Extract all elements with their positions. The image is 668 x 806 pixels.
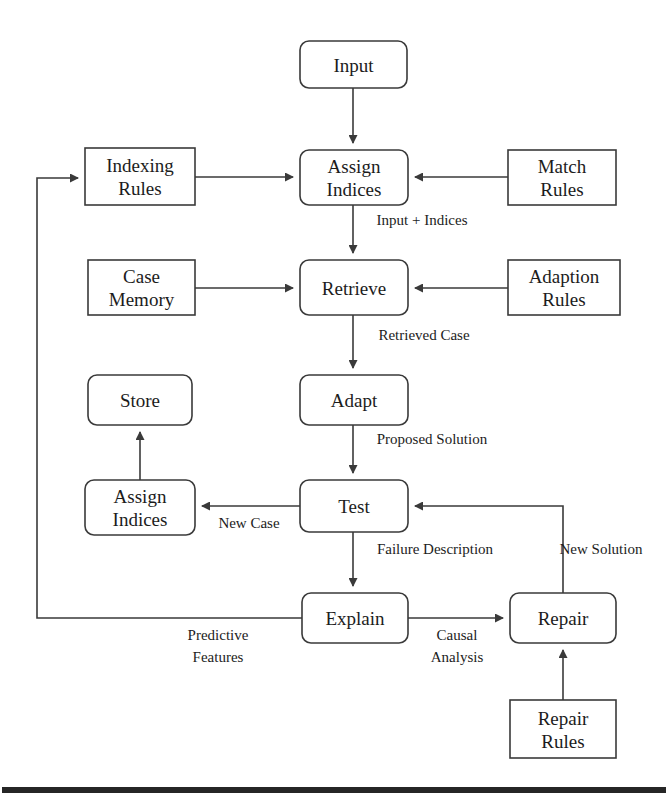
node-label-indexing-rules: Rules: [118, 178, 161, 199]
node-label-assign-indices-1: Assign: [328, 156, 381, 177]
node-label-case-memory: Case: [123, 266, 160, 287]
nodes-layer: InputIndexingRulesAssignIndicesMatchRule…: [85, 41, 620, 758]
edge-label-predictive-features: Predictive: [188, 627, 249, 643]
edge-label-causal-analysis: Causal: [437, 627, 478, 643]
bottom-horizontal-rule: [2, 787, 666, 793]
edge-label-new-case: New Case: [218, 515, 280, 531]
node-label-store: Store: [120, 390, 160, 411]
node-match-rules[interactable]: MatchRules: [508, 150, 616, 205]
edge-label-failure-description: Failure Description: [377, 541, 494, 557]
node-label-assign-indices-2: Indices: [113, 509, 168, 530]
node-explain[interactable]: Explain: [302, 593, 408, 643]
edge-label-new-solution: New Solution: [560, 541, 643, 557]
node-label-assign-indices-1: Indices: [327, 179, 382, 200]
node-repair-rules[interactable]: RepairRules: [510, 700, 616, 758]
node-label-test: Test: [338, 496, 370, 517]
node-label-case-memory: Memory: [109, 289, 175, 310]
node-label-indexing-rules: Indexing: [106, 155, 174, 176]
node-adaption-rules[interactable]: AdaptionRules: [508, 260, 620, 315]
node-label-explain: Explain: [325, 608, 385, 629]
edge-label-retrieved-case: Retrieved Case: [378, 327, 470, 343]
node-label-adapt: Adapt: [331, 390, 378, 411]
node-indexing-rules[interactable]: IndexingRules: [85, 148, 195, 205]
edge-label-proposed-solution: Proposed Solution: [377, 431, 488, 447]
node-test[interactable]: Test: [300, 480, 408, 532]
node-label-repair-rules: Repair: [538, 708, 589, 729]
node-adapt[interactable]: Adapt: [300, 375, 408, 425]
node-input[interactable]: Input: [300, 41, 407, 88]
node-label-repair-rules: Rules: [541, 731, 584, 752]
node-label-input: Input: [333, 55, 374, 76]
node-label-match-rules: Rules: [540, 179, 583, 200]
edge-label-input-plus-indices: Input + Indices: [377, 212, 468, 228]
node-store[interactable]: Store: [88, 375, 192, 425]
node-label-adaption-rules: Rules: [542, 289, 585, 310]
node-assign-indices-1[interactable]: AssignIndices: [300, 150, 408, 205]
node-label-match-rules: Match: [538, 156, 587, 177]
edge-label-predictive-features: Features: [193, 649, 244, 665]
node-label-assign-indices-2: Assign: [114, 486, 167, 507]
node-repair[interactable]: Repair: [510, 593, 616, 643]
flowchart-canvas: InputIndexingRulesAssignIndicesMatchRule…: [0, 0, 668, 806]
node-label-repair: Repair: [538, 608, 589, 629]
node-case-memory[interactable]: CaseMemory: [88, 260, 195, 315]
node-assign-indices-2[interactable]: AssignIndices: [85, 480, 195, 535]
edge-label-causal-analysis: Analysis: [431, 649, 484, 665]
node-label-retrieve: Retrieve: [322, 278, 386, 299]
node-retrieve[interactable]: Retrieve: [300, 260, 408, 315]
node-label-adaption-rules: Adaption: [529, 266, 600, 287]
